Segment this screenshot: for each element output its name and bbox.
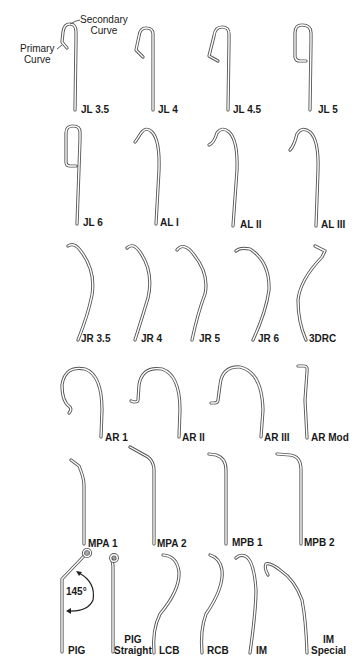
catheter-jr4 — [127, 246, 150, 340]
label-pig: PIG — [68, 645, 85, 656]
label-jr35: JR 3.5 — [81, 333, 110, 344]
label-jl35: JL 3.5 — [81, 104, 109, 115]
label-pig-straight-line1: PIG — [114, 634, 152, 645]
catheter-jr6 — [236, 248, 269, 340]
catheter-al1 — [135, 129, 159, 224]
catheter-jr35 — [68, 245, 93, 340]
label-im-special: IM Special — [311, 634, 346, 656]
catheter-rcb — [202, 555, 223, 653]
catheter-ar3 — [211, 367, 263, 437]
label-jr4: JR 4 — [141, 333, 162, 344]
primary-label-line1: Primary — [20, 44, 54, 54]
label-im-special-line2: Special — [311, 645, 346, 656]
label-jr5: JR 5 — [199, 333, 220, 344]
label-pig-straight: PIG Straight — [114, 634, 152, 656]
label-pig-straight-line2: Straight — [114, 645, 152, 656]
label-ar2: AR II — [182, 432, 205, 443]
label-ar1: AR 1 — [105, 432, 128, 443]
label-mpa1: MPA 1 — [88, 538, 117, 549]
label-al1: AL I — [160, 217, 179, 228]
catheter-mpa2 — [130, 447, 154, 544]
label-im-special-line1: IM — [311, 634, 346, 645]
catheter-ar2 — [131, 369, 180, 437]
secondary-curve-annotation: Secondary Curve — [80, 15, 128, 36]
catheter-ar1 — [62, 368, 102, 437]
catheter-im — [236, 555, 256, 653]
label-mpb1: MPB 1 — [232, 537, 263, 548]
catheter-jl5 — [295, 25, 311, 110]
catheter-jl35 — [62, 24, 76, 110]
catheter-jl6 — [66, 126, 80, 224]
label-im: IM — [256, 645, 267, 656]
catheter-al2 — [209, 129, 237, 226]
catheter-3drc — [298, 246, 325, 340]
label-rcb: RCB — [207, 645, 229, 656]
primary-curve-annotation: Primary Curve — [20, 44, 54, 65]
label-jl5: JL 5 — [318, 104, 338, 115]
label-jl45: JL 4.5 — [233, 104, 261, 115]
label-jr6: JR 6 — [258, 333, 279, 344]
catheter-mpa1 — [71, 460, 84, 544]
label-armod: AR Mod — [311, 432, 349, 443]
catheter-armod — [298, 366, 307, 438]
secondary-label-line2: Curve — [80, 26, 128, 36]
label-al2: AL II — [240, 219, 261, 230]
catheter-mpb2 — [277, 454, 301, 544]
catheter-jl45 — [209, 27, 229, 110]
label-lcb: LCB — [159, 645, 180, 656]
catheter-jr5 — [177, 247, 206, 341]
catheter-pig — [62, 550, 91, 653]
catheter-lcb — [154, 555, 179, 653]
primary-label-line2: Curve — [20, 55, 54, 65]
pig-angle-label: 145° — [66, 586, 87, 597]
label-al3: AL III — [321, 219, 345, 230]
label-jl4: JL 4 — [158, 104, 178, 115]
catheter-mpb1 — [209, 454, 226, 544]
label-mpb2: MPB 2 — [304, 537, 335, 548]
catheter-al3 — [290, 129, 318, 226]
label-mpa2: MPA 2 — [157, 538, 186, 549]
label-jl6: JL 6 — [83, 217, 103, 228]
label-ar3: AR III — [264, 432, 290, 443]
label-3drc: 3DRC — [309, 333, 336, 344]
catheter-jl4 — [136, 28, 153, 110]
catheter-im-special — [265, 564, 307, 653]
secondary-label-line1: Secondary — [80, 15, 128, 25]
